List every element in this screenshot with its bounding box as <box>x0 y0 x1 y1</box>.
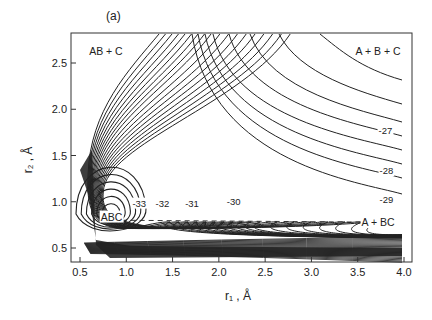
x-tick-label: 1.5 <box>165 266 180 278</box>
y-tick-label: 1.0 <box>52 196 67 208</box>
x-axis-ticks: 0.51.01.52.02.53.03.54.0 <box>72 257 411 278</box>
panel-label: (a) <box>106 9 121 23</box>
y-axis-ticks: 0.51.01.52.02.5 <box>52 57 76 254</box>
region-label: A + BC <box>362 216 395 228</box>
x-tick-label: 2.0 <box>211 266 226 278</box>
contour-lines <box>76 34 402 238</box>
x-tick-label: 4.0 <box>396 266 411 278</box>
contour-figure: (a) 0.51.01.52.02.53.03.54.0 0.51.01.52.… <box>0 0 432 320</box>
x-tick-label: 0.5 <box>72 266 87 278</box>
y-tick-label: 2.5 <box>52 57 67 69</box>
contour-value-label: -31 <box>185 198 199 209</box>
x-axis-title: r₁ , Å <box>225 288 251 303</box>
contour-value-label: -33 <box>132 198 146 209</box>
y-tick-label: 0.5 <box>52 242 67 254</box>
contour-value-label: -27 <box>379 125 393 136</box>
x-tick-label: 2.5 <box>257 266 272 278</box>
y-axis-label: r₂ , Å <box>20 147 35 174</box>
contour-value-label: -32 <box>156 198 170 209</box>
y-tick-label: 2.0 <box>52 103 67 115</box>
contour-line <box>320 34 402 80</box>
y-tick-label: 1.5 <box>52 150 67 162</box>
y-axis-title: r₂ , Å <box>20 147 35 174</box>
x-tick-label: 1.0 <box>119 266 134 278</box>
region-label: AB + C <box>89 45 123 57</box>
contour-value-label: -30 <box>227 196 241 207</box>
region-label: ABC <box>101 211 123 223</box>
x-tick-label: 3.5 <box>350 266 365 278</box>
contour-value-label: -28 <box>380 165 394 176</box>
x-tick-label: 3.0 <box>304 266 319 278</box>
region-label: A + B + C <box>356 45 401 57</box>
contour-plot: (a) 0.51.01.52.02.53.03.54.0 0.51.01.52.… <box>0 0 432 320</box>
contour-value-label: -29 <box>380 194 394 205</box>
x-axis-label: r₁ , Å <box>225 288 251 303</box>
